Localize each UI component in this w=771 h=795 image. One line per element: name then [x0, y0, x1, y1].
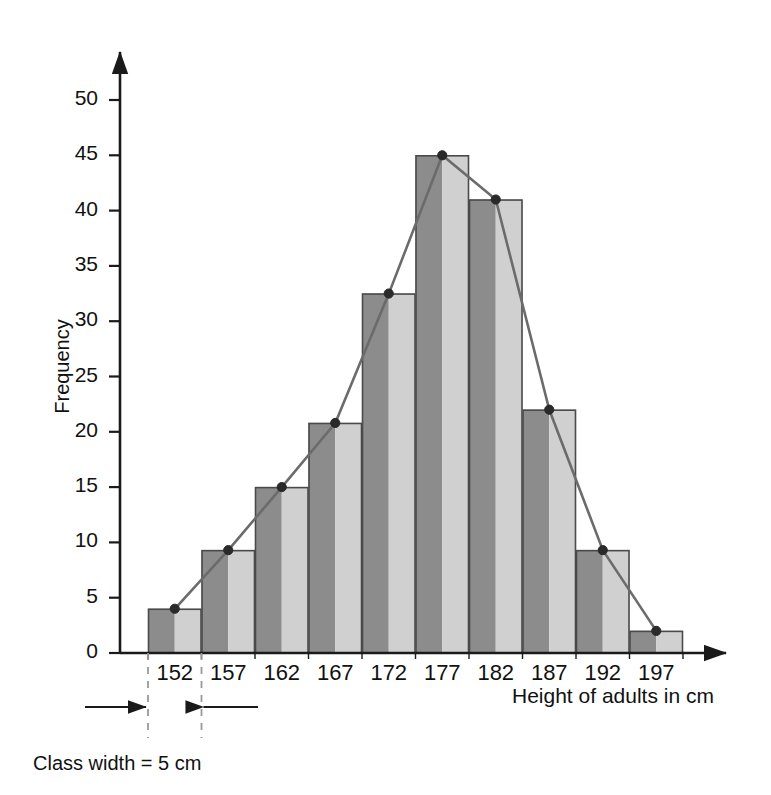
polygon-data-point[interactable]	[277, 483, 286, 492]
y-tick-label: 5	[52, 584, 98, 608]
x-tick-label: 182	[466, 660, 526, 686]
polygon-data-point[interactable]	[224, 546, 233, 555]
x-tick-label: 152	[145, 660, 205, 686]
polygon-data-point[interactable]	[331, 418, 340, 427]
y-tick-label: 30	[52, 307, 98, 331]
x-tick-label: 192	[573, 660, 633, 686]
histogram-bar[interactable]	[362, 294, 416, 653]
y-tick-group	[109, 100, 120, 653]
y-tick-label: 40	[52, 197, 98, 221]
y-tick-label: 35	[52, 252, 98, 276]
bar-fill-light	[335, 423, 362, 653]
bar-fill-light	[389, 294, 416, 653]
polygon-data-point[interactable]	[438, 151, 447, 160]
y-tick-label: 50	[52, 86, 98, 110]
bar-fill-light	[496, 200, 523, 653]
y-tick-label: 45	[52, 141, 98, 165]
histogram-bar[interactable]	[255, 487, 309, 653]
y-tick-label: 25	[52, 363, 98, 387]
bar-fill-dark	[523, 410, 550, 653]
x-tick-label: 167	[305, 660, 365, 686]
bar-fill-light	[228, 550, 255, 653]
bar-fill-dark	[576, 550, 603, 653]
histogram-bar[interactable]	[309, 423, 363, 653]
polygon-data-point[interactable]	[384, 289, 393, 298]
chart-figure: Frequency Height of adults in cm Class w…	[0, 0, 771, 795]
bar-fill-dark	[630, 631, 657, 653]
polygon-data-point[interactable]	[652, 626, 661, 635]
polygon-data-point[interactable]	[545, 405, 554, 414]
bar-fill-dark	[416, 155, 443, 653]
x-tick-label: 197	[626, 660, 686, 686]
polygon-data-point[interactable]	[170, 604, 179, 613]
bar-fill-light	[442, 155, 469, 653]
histogram-bar[interactable]	[202, 550, 256, 653]
polygon-data-point[interactable]	[598, 546, 607, 555]
histogram-bar[interactable]	[416, 155, 470, 653]
bar-fill-dark	[309, 423, 336, 653]
y-tick-label: 10	[52, 528, 98, 552]
bar-fill-light	[175, 609, 202, 653]
y-tick-label: 15	[52, 473, 98, 497]
y-tick-label: 20	[52, 418, 98, 442]
bar-fill-light	[656, 631, 683, 653]
polygon-data-point[interactable]	[491, 195, 500, 204]
x-axis-title: Height of adults in cm	[512, 684, 714, 708]
bar-fill-light	[603, 550, 630, 653]
bar-fill-dark	[148, 609, 175, 653]
histogram-bar[interactable]	[576, 550, 630, 653]
histogram-bar[interactable]	[469, 200, 523, 653]
y-tick-label: 0	[52, 639, 98, 663]
bar-fill-dark	[469, 200, 496, 653]
x-tick-label: 172	[359, 660, 419, 686]
bars-group	[148, 155, 683, 653]
x-tick-label: 162	[252, 660, 312, 686]
histogram-bar[interactable]	[148, 609, 202, 653]
x-tick-label: 157	[198, 660, 258, 686]
class-width-annotation: Class width = 5 cm	[33, 752, 201, 775]
x-tick-label: 187	[519, 660, 579, 686]
bar-fill-light	[282, 487, 309, 653]
x-tick-label: 177	[412, 660, 472, 686]
histogram-bar[interactable]	[523, 410, 577, 653]
